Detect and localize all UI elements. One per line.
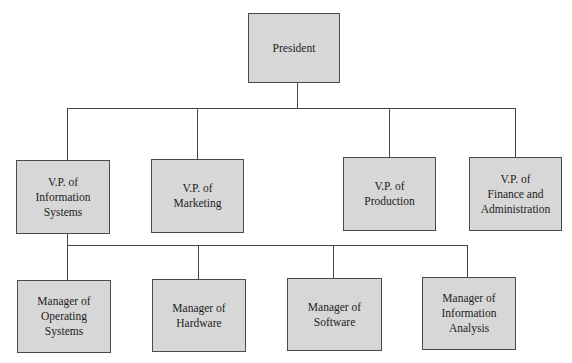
- connector-manager-bus: [67, 245, 468, 246]
- manager-operating-systems-box: Manager of Operating Systems: [17, 280, 111, 353]
- connector-manager-software: [333, 245, 334, 278]
- connector-vp-information-systems: [67, 108, 68, 160]
- connector-vp-finance: [515, 108, 516, 157]
- org-chart: President V.P. of Information Systems V.…: [0, 0, 572, 363]
- connector-manager-hardware: [198, 245, 199, 279]
- vp-information-systems-box: V.P. of Information Systems: [16, 160, 110, 234]
- vp-finance-administration-box: V.P. of Finance and Administration: [469, 157, 562, 231]
- connector-manager-information-analysis: [467, 245, 468, 277]
- connector-president-trunk: [297, 82, 298, 109]
- manager-software-box: Manager of Software: [287, 278, 382, 351]
- connector-vp-production: [389, 108, 390, 157]
- manager-information-analysis-box: Manager of Information Analysis: [422, 277, 516, 350]
- vp-production-box: V.P. of Production: [343, 157, 436, 231]
- connector-vp-marketing: [197, 108, 198, 159]
- connector-vp-is-trunk: [67, 233, 68, 280]
- vp-marketing-box: V.P. of Marketing: [151, 159, 244, 233]
- connector-vp-bus: [67, 108, 516, 109]
- manager-hardware-box: Manager of Hardware: [152, 279, 246, 352]
- president-box: President: [248, 13, 340, 83]
